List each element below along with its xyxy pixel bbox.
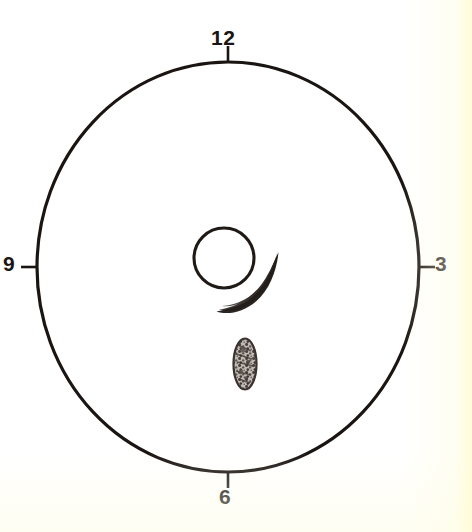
filled-crescent-mark	[217, 251, 279, 313]
hour-label-6: 6	[219, 486, 231, 507]
hour-label-9: 9	[3, 253, 15, 274]
diagram-canvas: 12 3 6 9	[0, 0, 472, 532]
mottled-oval-mark	[234, 339, 257, 390]
outer-boundary-circle	[37, 62, 419, 472]
inner-outline-circle	[194, 228, 254, 288]
hour-label-12: 12	[211, 27, 235, 48]
hour-label-3: 3	[435, 253, 447, 274]
clock-face-diagram	[0, 0, 472, 532]
